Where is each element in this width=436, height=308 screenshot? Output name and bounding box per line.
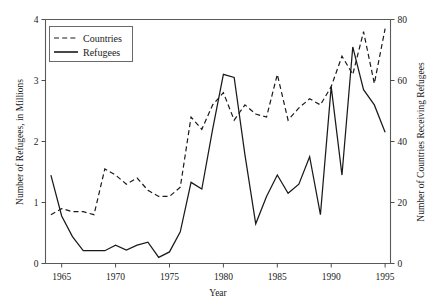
y2-tick-label: 20	[398, 198, 408, 208]
chart-figure: 01234 020406080 196519701975198019851990…	[0, 0, 436, 308]
x-tick-label: 1965	[52, 272, 71, 282]
series-layer	[51, 29, 385, 258]
x-tick-label: 1970	[106, 272, 125, 282]
left-axis-ticks: 01234	[34, 15, 46, 269]
x-tick-label: 1990	[322, 272, 341, 282]
x-tick-label: 1980	[214, 272, 233, 282]
y2-tick-label: 80	[398, 15, 408, 25]
y-tick-label: 3	[34, 76, 39, 86]
x-tick-label: 1995	[376, 272, 395, 282]
legend-label-refugees: Refugees	[83, 47, 120, 58]
series-line-refugees	[51, 47, 385, 257]
y2-axis-title: Number of Countries Receiving Refugees	[416, 62, 426, 222]
y2-tick-label: 40	[398, 137, 408, 147]
bottom-axis-ticks: 1965197019751980198519901995	[52, 264, 395, 282]
y-tick-label: 2	[34, 137, 39, 147]
chart-legend: Countries Refugees	[50, 27, 133, 62]
y-axis-title: Number of Refugees, in Millions	[15, 79, 25, 205]
y-tick-label: 4	[34, 15, 39, 25]
y-tick-label: 1	[34, 198, 39, 208]
y-tick-label: 0	[34, 259, 39, 269]
y2-tick-label: 0	[398, 259, 403, 269]
x-tick-label: 1985	[268, 272, 287, 282]
refugees-countries-line-chart: 01234 020406080 196519701975198019851990…	[0, 0, 436, 308]
y2-tick-label: 60	[398, 76, 408, 86]
x-axis-title: Year	[209, 288, 227, 298]
legend-label-countries: Countries	[83, 33, 122, 44]
right-axis-ticks: 020406080	[391, 15, 408, 269]
x-tick-label: 1975	[160, 272, 179, 282]
